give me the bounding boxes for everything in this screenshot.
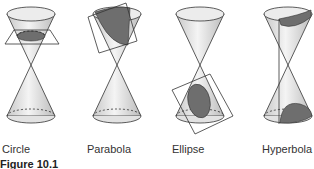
label-circle: Circle [2, 143, 30, 155]
cone-circle [5, 7, 59, 123]
cone-hyperbola [264, 7, 312, 124]
label-ellipse: Ellipse [172, 143, 204, 155]
label-parabola: Parabola [87, 143, 131, 155]
cone-parabola [88, 3, 141, 123]
cone-ellipse [172, 7, 233, 134]
label-hyperbola: Hyperbola [262, 143, 312, 155]
figure-caption: Figure 10.1 [0, 158, 58, 169]
